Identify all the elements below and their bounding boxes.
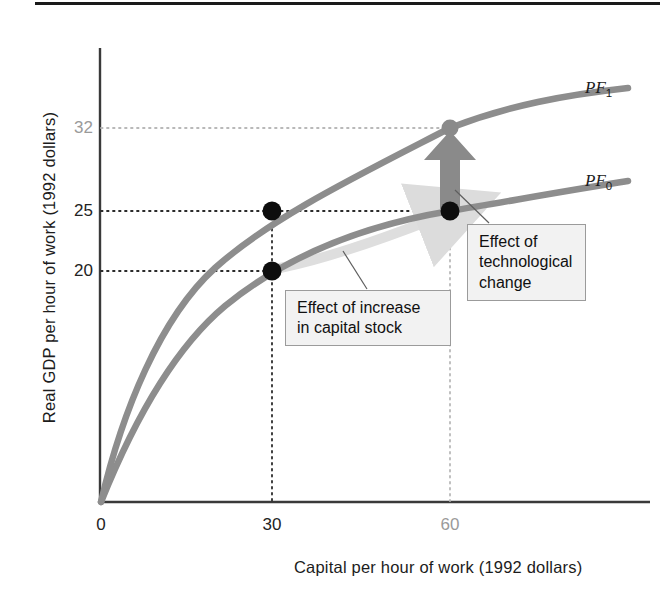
y-tick-label-20: 20 <box>53 261 93 281</box>
curve-label-pf1: PF1 <box>585 78 612 99</box>
marker-pf1-30-25 <box>263 202 282 221</box>
curve-label-pf1-subscript: 1 <box>606 87 612 99</box>
annotation-capital-stock: Effect of increase in capital stock <box>285 290 451 346</box>
y-axis-title: Real GDP per hour of work (1992 dollars) <box>40 73 59 463</box>
x-axis-title: Capital per hour of work (1992 dollars) <box>294 558 582 577</box>
y-tick-label-32: 32 <box>53 118 93 138</box>
curve-label-pf0: PF0 <box>585 171 612 192</box>
x-tick-label-60: 60 <box>430 515 470 535</box>
y-tick-label-25: 25 <box>53 201 93 221</box>
annotation-technological-change: Effect of technological change <box>467 224 586 301</box>
curve-label-pf0-text: PF <box>585 171 606 190</box>
marker-pf0-30-20 <box>263 262 282 281</box>
production-function-figure: 32 25 20 0 30 60 Real GDP per hour of wo… <box>0 0 660 589</box>
x-tick-label-0: 0 <box>81 515 121 535</box>
marker-pf1-60-32 <box>442 120 459 137</box>
capital-stock-arrow <box>280 218 436 268</box>
technological-change-arrow <box>424 131 476 209</box>
marker-pf0-60-25 <box>441 202 460 221</box>
curve-label-pf0-subscript: 0 <box>606 180 612 192</box>
curve-label-pf1-text: PF <box>585 78 606 97</box>
leader-line-capital <box>343 251 367 289</box>
x-tick-label-30: 30 <box>252 515 292 535</box>
